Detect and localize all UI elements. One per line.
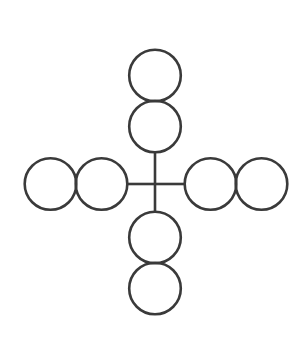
diagram-canvas [0, 0, 299, 345]
canvas-background [0, 0, 299, 345]
cross-circle-diagram [0, 0, 299, 345]
